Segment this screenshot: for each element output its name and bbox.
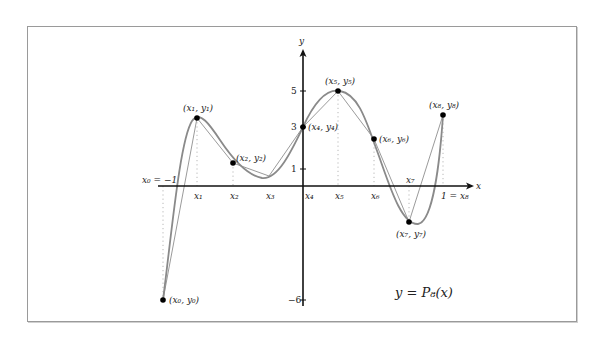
axes [158, 49, 474, 306]
point-x5-y5 [335, 88, 341, 94]
x-tick-label-x4: x₄ [305, 191, 314, 201]
point-label: (x₁, y₁) [183, 103, 214, 113]
point-x4-y4 [300, 124, 306, 130]
point-label: (x₄, y₄) [308, 122, 339, 132]
x-tick-label-x3: x₃ [266, 191, 275, 201]
point-label: (x₂, y₂) [236, 153, 267, 163]
y-tick-label: 5 [291, 86, 297, 96]
x-tick-label-x7: x₇ [406, 175, 415, 185]
y-axis-label: y [298, 36, 305, 46]
point-label: (x₈, y₈) [429, 100, 460, 110]
x-tick-label-x8: 1 = x₈ [441, 191, 469, 201]
x-tick-label-x2: x₂ [230, 191, 239, 201]
x-tick-label-x5: x₅ [335, 191, 344, 201]
point-x0-y0 [160, 297, 166, 303]
point-label: (x₆, y₆) [379, 134, 410, 144]
point-x6-y6 [371, 136, 377, 142]
y-tick-label: 1 [291, 164, 297, 174]
x-axis-label: x [476, 181, 481, 191]
point-x8-y8 [440, 112, 446, 118]
y-tick-label: 3 [291, 122, 297, 132]
x-tick-label-x0: x₀ = −1 [142, 175, 177, 185]
x-tick-label-x6: x₆ [371, 191, 380, 201]
point-x1-y1 [194, 115, 200, 121]
point-label: (x₇, y₇) [396, 229, 427, 239]
y-tick-label: −6 [288, 295, 302, 305]
equation-label: y = P₈(x) [394, 285, 453, 300]
plot-canvas: x y 5 3 1 −6 x₀ = −1 x₁ x₂ x₃ x₄ x₅ x₆ x… [0, 0, 601, 339]
point-label: (x₀, y₀) [169, 295, 200, 305]
point-label: (x₅, y₅) [325, 76, 356, 86]
x-tick-label-x1: x₁ [194, 191, 203, 201]
point-x2-y2 [230, 160, 236, 166]
point-x7-y7 [406, 219, 412, 225]
